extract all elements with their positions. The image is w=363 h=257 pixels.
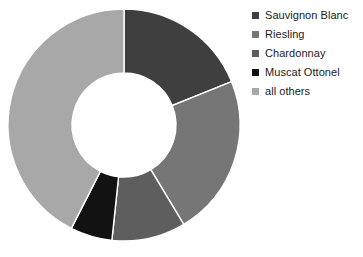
- legend-item-label: Sauvignon Blanc: [265, 9, 348, 22]
- donut-center-hole: [72, 73, 176, 177]
- legend-item-chardonnay[interactable]: Chardonnay: [252, 44, 360, 62]
- legend-item-label: Muscat Ottonel: [265, 66, 340, 79]
- legend-swatch-square-icon: [252, 50, 259, 57]
- legend-item-all-others[interactable]: all others: [252, 82, 360, 100]
- chart-legend: Sauvignon Blanc Riesling Chardonnay Musc…: [252, 6, 360, 101]
- legend-item-label: Chardonnay: [265, 47, 325, 60]
- legend-swatch-square-icon: [252, 88, 259, 95]
- legend-item-muscat-ottonel[interactable]: Muscat Ottonel: [252, 63, 360, 81]
- donut-chart-svg: [8, 9, 240, 241]
- legend-swatch-square-icon: [252, 12, 259, 19]
- legend-item-label: all others: [265, 85, 310, 98]
- legend-swatch-square-icon: [252, 69, 259, 76]
- legend-item-label: Riesling: [265, 28, 305, 41]
- legend-swatch-square-icon: [252, 31, 259, 38]
- legend-item-riesling[interactable]: Riesling: [252, 25, 360, 43]
- donut-chart-figure: Sauvignon Blanc Riesling Chardonnay Musc…: [0, 0, 363, 257]
- donut-chart-plot-area: [8, 9, 240, 241]
- legend-item-sauvignon-blanc[interactable]: Sauvignon Blanc: [252, 6, 360, 24]
